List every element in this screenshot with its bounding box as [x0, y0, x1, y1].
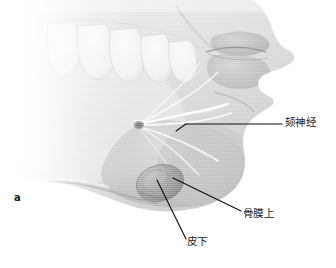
label-supraperiosteal: 骨膜上 — [243, 208, 274, 219]
top-edge-fade — [0, 0, 336, 12]
figure-panel-marker: a — [14, 193, 21, 203]
left-edge-fade — [0, 0, 130, 268]
label-subcutaneous: 皮下 — [187, 236, 208, 247]
anatomical-illustration — [0, 0, 336, 268]
label-mental-nerve: 颏神经 — [285, 117, 316, 128]
figure-container: 颏神经 骨膜上 皮下 a — [0, 0, 336, 268]
